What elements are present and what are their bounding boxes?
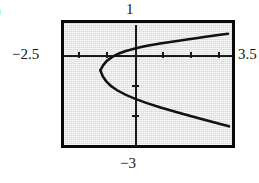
axis-label-right: 3.5 <box>238 47 257 62</box>
axis-label-top: 1 <box>126 2 134 17</box>
curve-group <box>100 34 229 127</box>
curve-upper-branch <box>100 34 228 71</box>
curve-lower-branch <box>100 70 229 126</box>
axes-group <box>64 25 232 145</box>
figure-enumeration-label: ) <box>0 0 1 22</box>
plot-frame <box>61 20 235 148</box>
plot-canvas <box>64 23 232 145</box>
axis-label-left: −2.5 <box>12 47 39 62</box>
axis-label-bottom: −3 <box>120 156 136 171</box>
